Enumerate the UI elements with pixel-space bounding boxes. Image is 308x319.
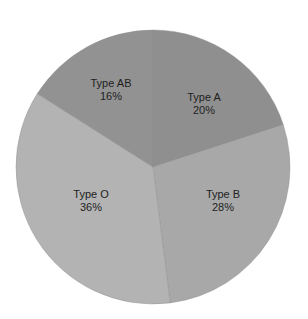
slice-label-name: Type B [206, 188, 240, 200]
slice-label-name: Type O [73, 188, 109, 200]
slice-label-value: 28% [212, 201, 234, 213]
slice-label-name: Type A [187, 91, 221, 103]
slice-label-value: 20% [193, 104, 215, 116]
slice-label-name: Type AB [91, 77, 132, 89]
slice-label-value: 36% [80, 201, 102, 213]
pie-chart: Type A 20% Type B 28% Type O 36% Type AB… [0, 0, 308, 319]
pie-slices [16, 30, 290, 304]
slice-label-value: 16% [100, 90, 122, 102]
